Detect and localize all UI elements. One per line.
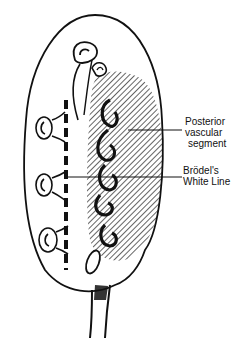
label-line: vascular	[185, 127, 226, 138]
label-brodels-white-line: Brödel's White Line	[183, 165, 230, 187]
label-line: White Line	[183, 176, 230, 187]
label-line: segment	[185, 138, 226, 149]
label-posterior-vascular-segment: Posterior vascular segment	[185, 116, 226, 149]
label-line: Brödel's	[183, 165, 230, 176]
label-line: Posterior	[185, 116, 226, 127]
